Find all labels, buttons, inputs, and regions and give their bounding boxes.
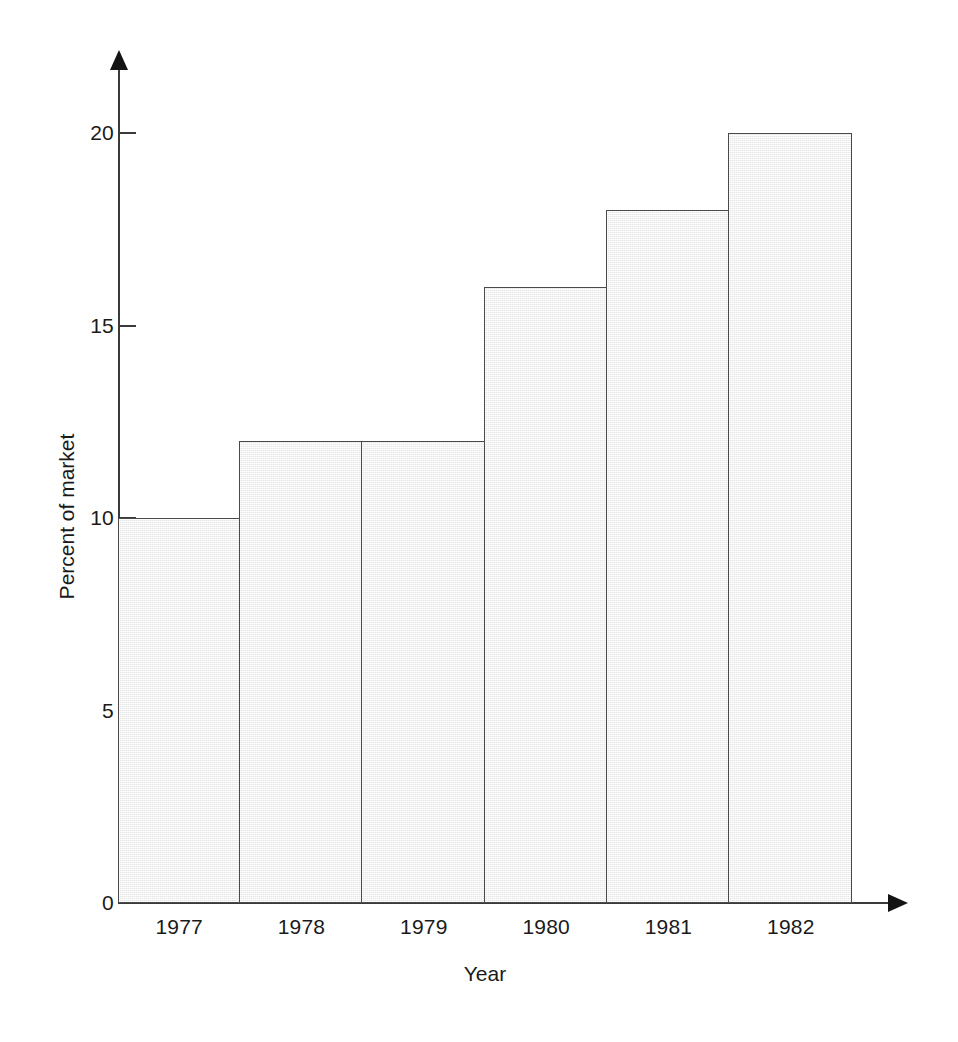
bar bbox=[484, 287, 608, 903]
bar-column bbox=[485, 68, 607, 903]
bar-column bbox=[730, 68, 852, 903]
bar-chart-figure: 05101520 Percent of market 1977197819791… bbox=[0, 0, 958, 1042]
x-axis-tick-label: 1979 bbox=[363, 916, 485, 937]
y-axis-title: Percent of market bbox=[56, 407, 77, 627]
x-axis-title: Year bbox=[118, 963, 852, 984]
bar bbox=[239, 441, 363, 903]
y-axis-tick-label: 20 bbox=[58, 122, 114, 143]
y-axis-tick-label: 5 bbox=[58, 700, 114, 721]
x-axis-tick-label: 1978 bbox=[240, 916, 362, 937]
bar bbox=[361, 441, 485, 903]
x-axis-tick-label: 1982 bbox=[730, 916, 852, 937]
bar-column bbox=[118, 68, 240, 903]
bar-column bbox=[363, 68, 485, 903]
bar bbox=[606, 210, 730, 903]
x-axis-tick-label: 1981 bbox=[607, 916, 729, 937]
bar bbox=[728, 133, 852, 903]
y-axis-tick-label: 15 bbox=[58, 315, 114, 336]
bar-column bbox=[240, 68, 362, 903]
plot-area bbox=[118, 68, 852, 903]
x-axis-tick-label: 1977 bbox=[118, 916, 240, 937]
bar-column bbox=[607, 68, 729, 903]
x-axis-arrow-icon bbox=[888, 894, 908, 912]
y-axis-tick-label: 0 bbox=[58, 892, 114, 913]
y-axis-arrow-icon bbox=[110, 50, 128, 70]
x-axis-tick-label: 1980 bbox=[485, 916, 607, 937]
bar bbox=[118, 518, 240, 903]
